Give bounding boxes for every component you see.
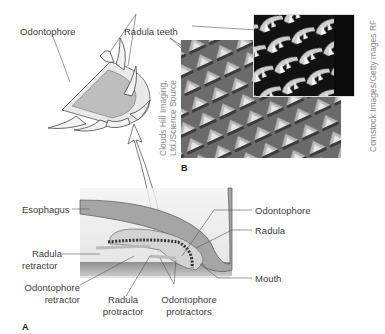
label-odontophore-retractor-line2: retractor	[20, 294, 80, 305]
label-radula-retractor-line2: retractor	[22, 260, 57, 271]
photo-credit-left-1: Clouds Hill Imaging,	[158, 80, 168, 156]
sem-micrograph-inset	[253, 14, 355, 97]
panel-letter-b: B	[181, 163, 188, 173]
label-odontophore-retractor-line1: Odontophore	[20, 282, 80, 293]
panel-a-drawing	[80, 188, 232, 278]
panel-letter-a: A	[22, 322, 29, 332]
photo-credit-right: Comstock Images/Getty mages RF	[368, 20, 378, 152]
photo-credit-left-2: Ltd./Science Source	[168, 80, 178, 156]
label-mouth: Mouth	[255, 273, 281, 284]
label-odontophore-detail: Odontophore	[20, 26, 75, 37]
label-odontophore-protractors-line1: Odontophore	[158, 294, 220, 305]
label-odontophore: Odontophore	[255, 205, 310, 216]
label-radula-protractor-line2: protractor	[98, 306, 148, 317]
label-radula-protractor-line1: Radula	[98, 294, 148, 305]
label-odontophore-protractors-line2: protractors	[158, 306, 220, 317]
odontophore-detail-drawing	[48, 38, 150, 131]
label-esophagus: Esophagus	[22, 204, 70, 215]
label-radula-retractor-line1: Radula	[28, 248, 62, 259]
label-radula-teeth: Radula teeth	[124, 26, 178, 37]
label-radula: Radula	[255, 225, 285, 236]
radula-teeth-closeup-texture	[254, 15, 354, 96]
